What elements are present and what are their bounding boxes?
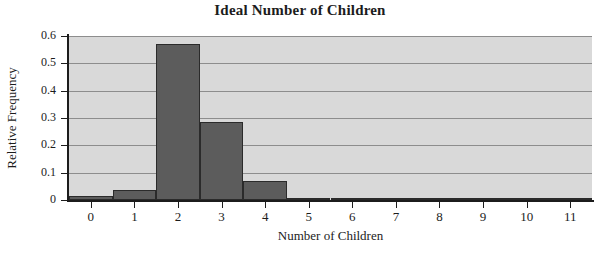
- y-tick-label-text: 0.5: [4, 55, 56, 70]
- gridline: [69, 63, 592, 64]
- gridline: [69, 118, 592, 119]
- x-tick-mark: [178, 202, 179, 208]
- bar-3: [200, 122, 244, 200]
- bar-1: [113, 190, 157, 200]
- y-tick-label-text: 0.4: [4, 83, 56, 98]
- y-tick-mark: [61, 200, 68, 201]
- x-tick-label-11: 11: [555, 209, 585, 225]
- x-tick-mark: [265, 202, 266, 208]
- y-tick-mark: [61, 63, 68, 64]
- x-tick-label-3: 3: [207, 209, 237, 225]
- plot-area: [69, 36, 592, 200]
- y-tick-label-text: 0.2: [4, 137, 56, 152]
- x-tick-mark: [527, 202, 528, 208]
- gridline: [69, 36, 592, 37]
- x-tick-label-0: 0: [76, 209, 106, 225]
- x-tick-mark: [483, 202, 484, 208]
- x-tick-label-4: 4: [250, 209, 280, 225]
- x-axis-title: Number of Children: [69, 228, 592, 244]
- y-tick-mark: [61, 91, 68, 92]
- y-tick-label-text: 0: [4, 192, 56, 207]
- x-tick-label-2: 2: [163, 209, 193, 225]
- chart-title: Ideal Number of Children: [0, 2, 600, 19]
- x-tick-label-6: 6: [337, 209, 367, 225]
- x-tick-mark: [222, 202, 223, 208]
- bar-2: [156, 44, 200, 200]
- gridline: [69, 145, 592, 146]
- gridline: [69, 91, 592, 92]
- y-tick-mark: [61, 173, 68, 174]
- x-axis-line: [67, 200, 594, 202]
- x-tick-mark: [91, 202, 92, 208]
- x-tick-mark: [309, 202, 310, 208]
- x-tick-mark: [134, 202, 135, 208]
- x-tick-label-10: 10: [512, 209, 542, 225]
- y-tick-mark: [61, 118, 68, 119]
- x-tick-mark: [396, 202, 397, 208]
- gridline: [69, 173, 592, 174]
- x-tick-label-9: 9: [468, 209, 498, 225]
- y-tick-label-text: 0.3: [4, 110, 56, 125]
- x-tick-label-7: 7: [381, 209, 411, 225]
- histogram-chart: Ideal Number of Children Relative Freque…: [0, 0, 600, 259]
- x-tick-mark: [439, 202, 440, 208]
- x-tick-label-1: 1: [119, 209, 149, 225]
- y-tick-mark: [61, 36, 68, 37]
- y-tick-label-text: 0.6: [4, 28, 56, 43]
- bar-4: [243, 181, 287, 200]
- x-tick-mark: [570, 202, 571, 208]
- x-tick-label-5: 5: [294, 209, 324, 225]
- x-tick-mark: [352, 202, 353, 208]
- y-tick-label-text: 0.1: [4, 165, 56, 180]
- y-tick-mark: [61, 145, 68, 146]
- x-tick-label-8: 8: [424, 209, 454, 225]
